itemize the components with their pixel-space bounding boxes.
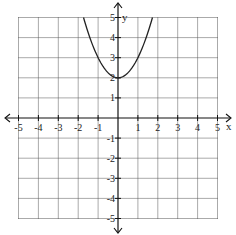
x-tick-label: -5 xyxy=(14,122,22,133)
x-tick-label: -4 xyxy=(34,122,42,133)
y-tick-label: 5 xyxy=(110,12,115,23)
x-tick-label: 1 xyxy=(135,122,140,133)
y-tick-label: -1 xyxy=(107,133,115,144)
y-tick-label: 1 xyxy=(110,92,115,103)
coordinate-plane: -5-4-3-2-112345-5-4-3-2-112345 x y xyxy=(0,0,236,235)
y-tick-label: 4 xyxy=(110,32,115,43)
y-tick-label: 3 xyxy=(110,52,115,63)
x-tick-label: 2 xyxy=(155,122,160,133)
y-tick-label: -2 xyxy=(107,153,115,164)
x-tick-label: 5 xyxy=(215,122,220,133)
y-tick-label: -5 xyxy=(107,213,115,224)
x-tick-label: -1 xyxy=(94,122,102,133)
y-tick-label: -3 xyxy=(107,173,115,184)
x-tick-label: 3 xyxy=(175,122,180,133)
y-tick-label: -4 xyxy=(107,193,115,204)
y-tick-label: 2 xyxy=(110,72,115,83)
y-axis-label: y xyxy=(122,11,128,23)
x-axis-label: x xyxy=(226,120,232,132)
x-tick-label: -3 xyxy=(54,122,62,133)
x-tick-label: -2 xyxy=(74,122,82,133)
x-tick-label: 4 xyxy=(195,122,200,133)
